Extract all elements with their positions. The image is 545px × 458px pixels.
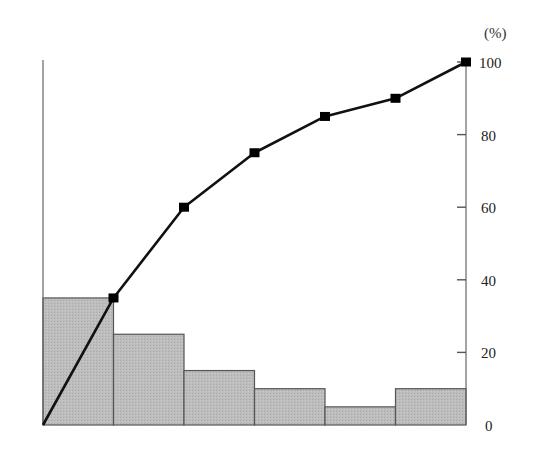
right-axis-unit-label: (%) [484,25,507,42]
right-axis-ticks: 020406080100 [457,55,502,434]
bar-series [43,298,466,425]
line-marker [250,148,260,157]
bar-4 [255,389,326,425]
bar-2 [114,334,185,425]
line-marker [391,94,401,103]
line-marker [461,58,471,67]
pareto-chart: 020406080100 (%) [0,0,545,458]
line-marker [179,203,189,212]
line-marker [109,293,119,302]
tick-label: 0 [485,418,493,434]
tick-label: 80 [481,128,496,144]
tick-label: 100 [479,55,502,71]
bar-3 [184,371,255,425]
tick-label: 60 [481,200,496,216]
bar-5 [325,407,396,425]
tick-label: 40 [481,273,496,289]
line-marker [320,112,330,121]
bar-6 [396,389,467,425]
tick-label: 20 [481,345,496,361]
